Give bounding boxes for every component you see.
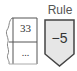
table-cell-value: 33 bbox=[14, 22, 37, 34]
table-cell-ellipsis: ... bbox=[14, 47, 37, 58]
rule-value: −5 bbox=[45, 30, 74, 46]
torn-edge bbox=[6, 18, 12, 64]
rule-label: Rule bbox=[44, 3, 76, 17]
